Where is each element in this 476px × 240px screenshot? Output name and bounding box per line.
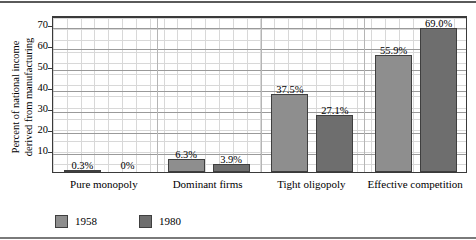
bar-value-label: 3.9%: [207, 154, 256, 165]
y-axis-tick-label: 10: [28, 146, 48, 156]
bar-value-label: 0%: [103, 160, 152, 171]
bar: [375, 55, 412, 172]
bar-value-label: 6.3%: [162, 149, 211, 160]
legend-swatch: [139, 215, 152, 228]
y-axis-title-line-1: Percent of national income: [9, 41, 22, 154]
chart-figure: Percent of national income derived from …: [0, 0, 476, 240]
y-axis-tick-mark: [48, 47, 52, 48]
y-axis-tick-labels: 10203040506070: [24, 0, 48, 240]
legend-label: 1980: [159, 215, 181, 227]
x-axis-category-label: Pure monopoly: [52, 178, 156, 191]
legend-swatch: [55, 215, 68, 228]
bar-value-label: 69.0%: [414, 18, 463, 29]
y-axis-tick-label: 20: [28, 125, 48, 135]
bar-value-label: 37.5%: [265, 84, 314, 95]
bar: [316, 115, 353, 172]
x-axis-category-label: Tight oligopoly: [260, 178, 364, 191]
plot-area: 0.3%0%6.3%3.9%37.5%27.1%55.9%69.0%: [52, 16, 467, 173]
y-axis-tick-label: 60: [28, 41, 48, 51]
chart-legend: 19581980: [55, 212, 223, 230]
figure-bottom-rule: [0, 237, 476, 239]
y-axis-tick-mark: [48, 68, 52, 69]
bar-value-label: 0.3%: [58, 160, 107, 171]
bar-value-label: 55.9%: [369, 45, 418, 56]
y-axis-tick-label: 40: [28, 83, 48, 93]
legend-item: 1980: [139, 215, 181, 228]
bar: [271, 94, 308, 173]
figure-top-rule: [0, 1, 476, 3]
legend-label: 1958: [75, 215, 97, 227]
y-axis-tick-mark: [48, 152, 52, 153]
bar: [213, 164, 250, 172]
legend-item: 1958: [55, 215, 97, 228]
y-axis-tick-label: 70: [28, 20, 48, 30]
bar-value-label: 27.1%: [310, 105, 359, 116]
bar: [420, 28, 457, 172]
bars-layer: 0.3%0%6.3%3.9%37.5%27.1%55.9%69.0%: [53, 18, 466, 172]
y-axis-tick-mark: [48, 26, 52, 27]
y-axis-tick-label: 50: [28, 62, 48, 72]
y-axis-tick-mark: [48, 89, 52, 90]
x-axis-category-label: Dominant firms: [156, 178, 260, 191]
x-axis-category-labels: Pure monopolyDominant firmsTight oligopo…: [52, 178, 467, 194]
bar: [168, 159, 205, 172]
y-axis-tick-label: 30: [28, 104, 48, 114]
y-axis-tick-mark: [48, 110, 52, 111]
x-axis-category-label: Effective competition: [363, 178, 467, 191]
y-axis-tick-mark: [48, 131, 52, 132]
